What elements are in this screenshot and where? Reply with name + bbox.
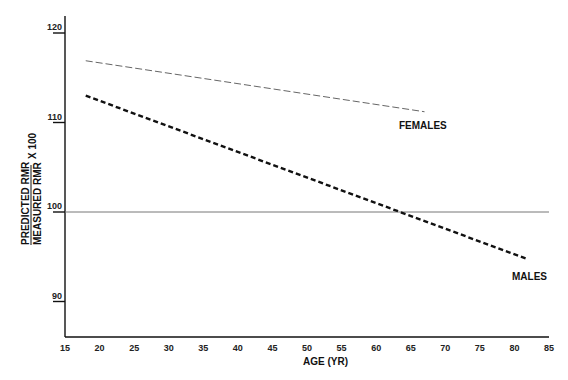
x-tick-label: 45	[267, 343, 277, 353]
y-axis-denominator: MEASURED RMR	[32, 161, 43, 245]
x-tick-label: 40	[233, 343, 243, 353]
x-tick-label: 50	[302, 343, 312, 353]
x-tick-label: 15	[60, 343, 70, 353]
x-ticks: 152025303540455055606570758085	[60, 343, 554, 353]
y-tick-label: 120	[47, 22, 62, 32]
y-tick-label: 110	[47, 112, 62, 122]
y-tick-label: 100	[47, 201, 62, 211]
x-tick-label: 25	[129, 343, 139, 353]
females-line	[86, 61, 425, 112]
rmr-ratio-by-age-chart: 90100110120 1520253035404550556065707580…	[0, 0, 568, 380]
females-label: FEMALES	[399, 120, 447, 131]
x-tick-label: 55	[337, 343, 347, 353]
x-tick-label: 80	[509, 343, 519, 353]
x-tick-label: 85	[544, 343, 554, 353]
y-tick-label: 90	[52, 291, 62, 301]
y-axis-multiplier: X 100	[27, 132, 38, 159]
x-tick-label: 60	[371, 343, 381, 353]
x-tick-label: 35	[198, 343, 208, 353]
y-ticks: 90100110120	[47, 22, 65, 302]
x-tick-label: 30	[164, 343, 174, 353]
males-line	[86, 96, 529, 260]
x-axis-title: AGE (YR)	[303, 356, 348, 367]
y-axis-numerator: PREDICTED RMR	[20, 161, 31, 245]
x-tick-label: 70	[440, 343, 450, 353]
x-tick-label: 20	[95, 343, 105, 353]
y-axis-title: PREDICTED RMR MEASURED RMR X 100	[20, 132, 43, 245]
x-tick-label: 75	[475, 343, 485, 353]
x-tick-label: 65	[406, 343, 416, 353]
males-label: MALES	[512, 271, 547, 282]
